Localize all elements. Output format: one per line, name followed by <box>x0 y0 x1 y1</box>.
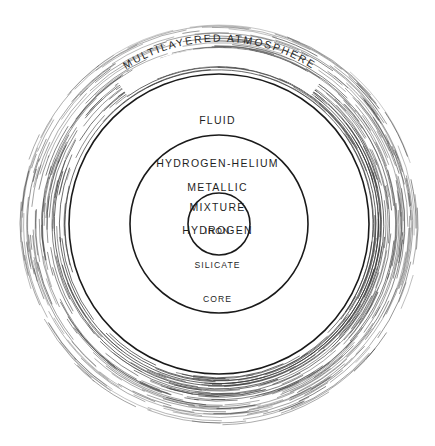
atmosphere-arc-stroke <box>192 410 225 412</box>
core-label-line-1: IRON <box>0 226 435 237</box>
atmosphere-arc-stroke <box>74 328 161 393</box>
atmosphere-arc-stroke <box>206 396 219 397</box>
planet-cross-section-diagram: MULTILAYERED ATMOSPHERE FLUID HYDROGEN-H… <box>0 0 435 446</box>
iron-silicate-core-label: IRON SILICATE CORE <box>0 203 435 329</box>
core-label-line-2: SILICATE <box>0 260 435 271</box>
fluid-label-line-1: FLUID <box>0 113 435 127</box>
core-label-line-3: CORE <box>0 294 435 305</box>
atmosphere-arc-stroke <box>101 331 122 351</box>
atmosphere-arc-stroke <box>183 31 199 33</box>
metallic-label-line-1: METALLIC <box>0 180 435 194</box>
